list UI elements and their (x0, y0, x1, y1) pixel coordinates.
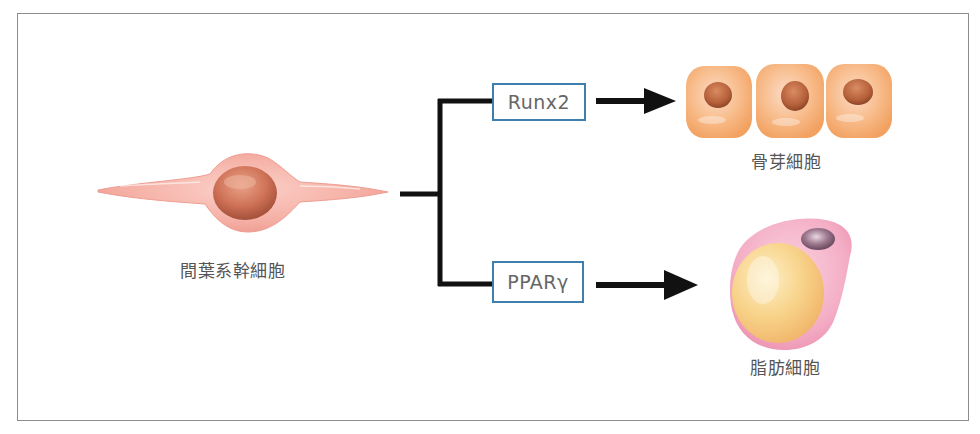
osteoblast-cells-icon (686, 64, 892, 138)
runx2-factor-box: Runx2 (492, 83, 586, 121)
adipocyte-cell-icon (730, 219, 852, 350)
arrow-to-osteoblast-icon (596, 88, 676, 114)
diagram-canvas (0, 0, 980, 434)
runx2-label: Runx2 (508, 91, 570, 113)
ppar-gamma-label: PPARγ (507, 271, 569, 293)
adipocyte-label: 脂肪細胞 (750, 354, 820, 379)
osteoblast-label: 骨芽細胞 (751, 148, 821, 173)
branch-connector (400, 99, 494, 286)
ppar-gamma-factor-box: PPARγ (492, 261, 584, 303)
mesenchymal-stem-cell-icon (98, 154, 388, 232)
mesenchymal-stem-cell-label: 間葉系幹細胞 (180, 257, 285, 282)
arrow-to-adipocyte-icon (596, 270, 698, 300)
